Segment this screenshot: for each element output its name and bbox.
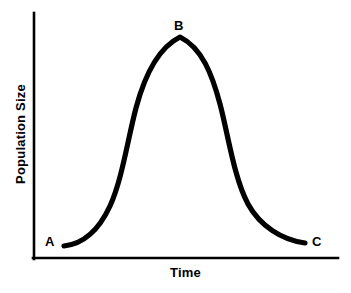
x-axis-label: Time xyxy=(33,265,338,280)
figure-canvas: Population Size Time A B C xyxy=(0,0,351,293)
curve-point-label-b: B xyxy=(174,19,183,32)
population-curve-plot xyxy=(0,0,351,293)
population-curve-path xyxy=(64,37,305,246)
curve-point-label-a: A xyxy=(45,235,54,248)
curve-point-label-c: C xyxy=(312,235,321,248)
y-axis-label: Population Size xyxy=(10,10,32,258)
